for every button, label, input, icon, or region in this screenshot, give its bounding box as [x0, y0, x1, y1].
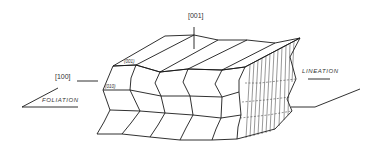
- label-axis-100: [100]: [55, 73, 71, 81]
- block-diagram: [001]: [0, 0, 383, 149]
- label-foliation: FOLIATION: [42, 97, 79, 103]
- label-lineation: LINEATION: [302, 68, 339, 74]
- lineation-plane: [291, 89, 360, 107]
- label-axis-001: [001]: [188, 12, 204, 20]
- label-face-001: (001): [124, 59, 135, 64]
- front-face: [97, 65, 245, 140]
- label-face-010: (010): [105, 84, 116, 89]
- right-face: [237, 38, 300, 139]
